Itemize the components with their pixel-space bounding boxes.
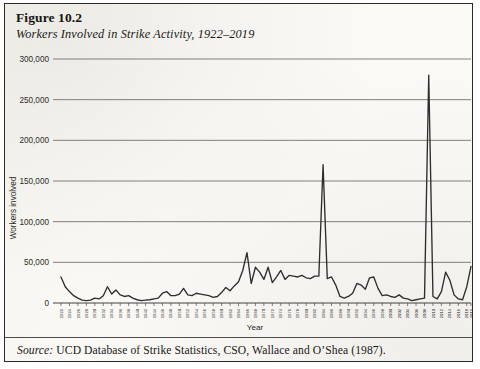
x-axis-tick-label: 1980 <box>304 308 309 318</box>
x-axis-tick-label: 1936 <box>118 308 123 318</box>
x-axis-tick-label: 1952 <box>185 308 190 318</box>
x-axis-tick-label: 2014 <box>447 308 452 318</box>
x-axis-tick-label: 2008 <box>422 308 427 318</box>
source-label: Source: <box>17 344 53 357</box>
x-axis-tick-label: 1968 <box>253 308 258 318</box>
y-axis-tick-label-group: 050,000100,000150,000200,000250,000300,0… <box>19 55 49 308</box>
x-axis-tick-label: 1956 <box>202 308 207 318</box>
x-axis-tick-label: 1938 <box>126 308 131 318</box>
x-axis-tick-label: 1932 <box>101 308 106 318</box>
x-axis-tick-label: 1944 <box>152 308 157 318</box>
x-axis-tick-label: 1962 <box>228 308 233 318</box>
x-axis-tick-label: 1988 <box>338 308 343 318</box>
source-divider <box>5 337 472 338</box>
y-axis-tick-label: 100,000 <box>19 218 49 227</box>
chart-plot-region: 050,000100,000150,000200,000250,000300,0… <box>5 48 472 336</box>
x-axis-tick-label: 1928 <box>84 308 89 318</box>
figure-frame: Figure 10.2 Workers Involved in Strike A… <box>4 3 473 362</box>
x-axis-tick-label: 2002 <box>397 308 402 318</box>
x-axis-tick-label: 1970 <box>261 308 266 318</box>
x-axis-tick-label: 1964 <box>236 308 241 318</box>
figure-title: Workers Involved in Strike Activity, 192… <box>16 27 254 42</box>
x-axis-tick-label: 1986 <box>329 308 334 318</box>
y-axis-tick-label: 300,000 <box>19 55 49 64</box>
gridline-group <box>53 59 471 303</box>
x-axis-title: Year <box>247 323 264 332</box>
x-axis-tick-label: 2019 <box>469 308 472 318</box>
y-axis-title: Workers involved <box>9 176 18 239</box>
strike-participation-line <box>61 75 471 300</box>
x-axis-tick-label: 1946 <box>160 308 165 318</box>
x-axis-tick-label-group: 1922192419261928193019321934193619381940… <box>59 308 472 318</box>
x-axis-tick-label: 1974 <box>278 308 283 318</box>
x-axis-tick-label: 1966 <box>245 308 250 318</box>
x-axis-tick-label: 1996 <box>371 308 376 318</box>
x-axis-tick-label: 2010 <box>431 308 436 318</box>
x-axis-tick-label: 1942 <box>143 308 148 318</box>
x-axis-tick-label: 2006 <box>414 308 419 318</box>
x-axis-tick-label: 1982 <box>312 308 317 318</box>
x-axis-tick-label: 1926 <box>76 308 81 318</box>
y-axis-tick-label: 150,000 <box>19 177 49 186</box>
figure-number-heading: Figure 10.2 <box>16 10 82 26</box>
x-axis-tick-label: 1994 <box>363 308 368 318</box>
x-axis-tick-label: 2004 <box>405 308 410 318</box>
x-axis-tick-label: 1922 <box>59 308 64 318</box>
x-axis-tick-label: 1998 <box>380 308 385 318</box>
x-axis-tick-label: 2000 <box>388 308 393 318</box>
strike-activity-line-chart: 050,000100,000150,000200,000250,000300,0… <box>5 48 472 336</box>
x-axis-tick-label: 1958 <box>211 308 216 318</box>
x-axis-tick-label: 1978 <box>295 308 300 318</box>
y-axis-tick-label: 200,000 <box>19 136 49 145</box>
x-axis-tick-label: 1984 <box>321 308 326 318</box>
x-axis-tick-label: 1950 <box>177 308 182 318</box>
x-axis-tick-label: 1960 <box>219 308 224 318</box>
x-axis-tick-label: 1992 <box>354 308 359 318</box>
x-axis-tick-label: 1940 <box>135 308 140 318</box>
x-axis-tick-label: 1972 <box>270 308 275 318</box>
x-axis-tick-label: 1934 <box>109 308 114 318</box>
x-axis-tick-label: 1954 <box>194 308 199 318</box>
y-axis-tick-label: 0 <box>44 299 49 308</box>
x-axis-tick-label: 1990 <box>346 308 351 318</box>
x-axis-tick-label: 1930 <box>92 308 97 318</box>
source-detail: UCD Database of Strike Statistics, CSO, … <box>53 344 385 357</box>
x-axis-tick-label: 1976 <box>287 308 292 318</box>
y-axis-tick-label: 250,000 <box>19 96 49 105</box>
x-axis-tick-label: 1924 <box>67 308 72 318</box>
x-axis-tick-label: 2016 <box>456 308 461 318</box>
x-axis-tick-label: 2012 <box>439 308 444 318</box>
x-axis-tick-label: 1948 <box>168 308 173 318</box>
source-caption: Source: UCD Database of Strike Statistic… <box>17 344 386 357</box>
y-axis-tick-label: 50,000 <box>24 258 49 267</box>
